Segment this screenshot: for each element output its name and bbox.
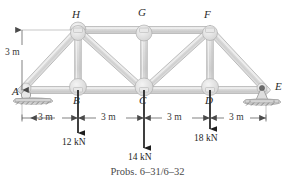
joint-label-E: E — [275, 81, 282, 92]
load-label-D: 18 kN — [194, 134, 218, 144]
joint-label-B: B — [73, 95, 80, 106]
joint-label-C: C — [139, 95, 146, 106]
load-label-B: 12 kN — [62, 138, 86, 148]
joint-label-F: F — [204, 9, 211, 20]
load-label-C: 14 kN — [128, 153, 152, 163]
truss-figure: A B C D E H G F 3 m 3 m 3 m 3 m 3 m 12 k… — [0, 0, 295, 187]
joint-label-D: D — [205, 95, 213, 106]
figure-caption: Probs. 6–31/6–32 — [0, 167, 295, 178]
span-label-A-B: 3 m — [38, 113, 53, 123]
joint-label-A: A — [12, 86, 19, 97]
joint-label-H: H — [72, 9, 80, 20]
vertical-dimension-label: 3 m — [5, 48, 20, 58]
joint-label-G: G — [138, 7, 146, 18]
span-label-B-C: 3 m — [101, 113, 116, 123]
span-label-D-E: 3 m — [229, 113, 244, 123]
span-label-C-D: 3 m — [167, 113, 182, 123]
gusset-joint-G — [136, 25, 152, 41]
